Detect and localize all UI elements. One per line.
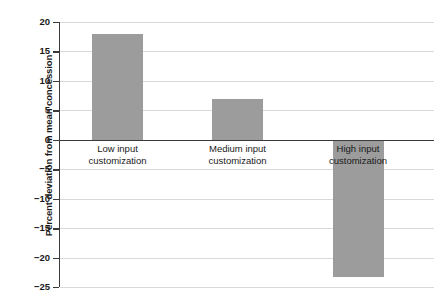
y-tick-mark: [53, 81, 59, 82]
x-category-label-line: customization: [48, 155, 188, 168]
x-category-label-line: customization: [168, 155, 308, 168]
y-tick-mark: [53, 228, 59, 229]
gridline: [60, 287, 434, 288]
y-tick-mark: [53, 140, 59, 141]
x-category-label: Medium inputcustomization: [168, 143, 308, 168]
x-category-label-line: customization: [288, 155, 428, 168]
bar: [92, 34, 143, 140]
x-category-label-line: Low input: [48, 143, 188, 156]
bar-chart: Percent deviation from mean concession 2…: [0, 0, 434, 304]
y-tick-mark: [53, 258, 59, 259]
y-tick-label: 15: [8, 46, 50, 56]
y-tick-label: −5: [8, 164, 50, 174]
y-tick-label: −20: [8, 253, 50, 263]
x-category-label: Low inputcustomization: [48, 143, 188, 168]
y-tick-mark: [53, 51, 59, 52]
x-category-label-line: High input: [288, 143, 428, 156]
y-tick-mark: [53, 199, 59, 200]
gridline: [60, 22, 434, 23]
y-tick-label: 5: [8, 105, 50, 115]
x-category-label-line: Medium input: [168, 143, 308, 156]
y-tick-label: 0: [8, 135, 50, 145]
y-tick-label: −10: [8, 194, 50, 204]
y-tick-mark: [53, 287, 59, 288]
y-tick-label: 10: [8, 76, 50, 86]
y-tick-label: 20: [8, 17, 50, 27]
x-category-label: High inputcustomization: [288, 143, 428, 168]
y-tick-mark: [53, 110, 59, 111]
y-tick-mark: [53, 169, 59, 170]
y-tick-label: −15: [8, 223, 50, 233]
y-tick-mark: [53, 22, 59, 23]
zero-baseline: [60, 140, 434, 141]
bar: [212, 99, 263, 140]
y-tick-label: −25: [8, 282, 50, 292]
